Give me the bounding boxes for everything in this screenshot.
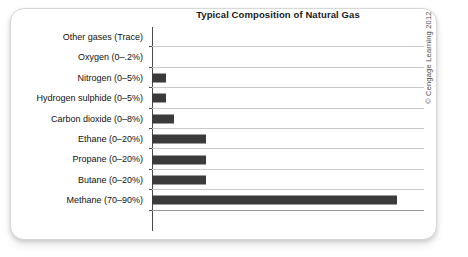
- chart-row: [152, 190, 424, 210]
- chart-title: Typical Composition of Natural Gas: [142, 9, 414, 20]
- category-label: Hydrogen sulphide (0–5%): [0, 88, 148, 108]
- category-label: Ethane (0–20%): [0, 129, 148, 149]
- category-label: Butane (0–20%): [0, 170, 148, 190]
- chart-row: [152, 47, 424, 67]
- chart-row: [152, 88, 424, 108]
- category-label: Methane (70–90%): [0, 190, 148, 210]
- chart-row: [152, 109, 424, 129]
- bar: [152, 114, 174, 123]
- chart-row: [152, 27, 424, 47]
- category-label: Carbon dioxide (0–8%): [0, 109, 148, 129]
- chart-row: [152, 129, 424, 149]
- chart-row: [152, 68, 424, 88]
- bar: [152, 175, 206, 184]
- category-label: Other gases (Trace): [0, 27, 148, 47]
- category-label: Oxygen (0–.2%): [0, 47, 148, 67]
- category-label: Propane (0–20%): [0, 149, 148, 169]
- chart-row: [152, 149, 424, 169]
- bar: [152, 196, 397, 205]
- chart-figure: Typical Composition of Natural Gas Other…: [0, 0, 468, 257]
- category-label: Nitrogen (0–5%): [0, 68, 148, 88]
- bar: [152, 155, 206, 164]
- bar: [152, 135, 206, 144]
- chart-row: [152, 170, 424, 190]
- bar: [152, 73, 166, 82]
- category-axis-labels: Other gases (Trace)Oxygen (0–.2%)Nitroge…: [0, 27, 148, 231]
- bar: [152, 94, 166, 103]
- row-gridline: [152, 210, 424, 211]
- copyright-credit: © Cengage Learning 2012: [424, 11, 433, 104]
- plot-area: [152, 27, 424, 231]
